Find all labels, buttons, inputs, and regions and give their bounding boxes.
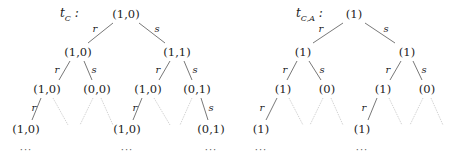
node-lll: (1) — [253, 124, 269, 136]
edge-r-r-left — [159, 61, 170, 80]
node-rl: (1) — [375, 84, 391, 96]
node-ll: (1,0) — [33, 84, 60, 96]
node-lll: (1,0) — [12, 124, 39, 136]
edge-label-r: r — [260, 103, 265, 113]
node-ll: (1) — [275, 84, 291, 96]
edge-s-rs-left — [201, 98, 208, 120]
edge-label-s: s — [383, 24, 388, 34]
edge-label-s: s — [192, 65, 197, 75]
faded-edge — [410, 98, 423, 125]
faded-edge — [101, 98, 113, 125]
node-root: (1) — [346, 9, 362, 21]
edge-label-r: r — [283, 65, 288, 75]
node-r: (1) — [399, 47, 415, 59]
tree-title: tC : — [60, 7, 79, 22]
edge-label-s: s — [91, 65, 96, 75]
edge-label-r: r — [133, 103, 138, 113]
tree-title: tC,A : — [296, 7, 323, 22]
edge-label-r: r — [362, 103, 367, 113]
ellipsis: ··· — [356, 144, 369, 155]
ellipsis: ··· — [121, 144, 134, 155]
faded-edge — [431, 98, 443, 125]
node-rss: (0,1) — [197, 124, 224, 136]
edge-label-r: r — [156, 65, 161, 75]
faded-edge — [180, 98, 192, 125]
faded-edge — [310, 98, 323, 125]
ellipsis: ··· — [205, 144, 218, 155]
edge-r-ll-right — [266, 98, 277, 120]
node-l: (1,0) — [64, 47, 91, 59]
edge-r-r-right — [390, 61, 401, 80]
edge-s-root-left — [139, 23, 165, 43]
faded-edge — [331, 98, 343, 125]
edge-label-r: r — [93, 24, 98, 34]
node-r: (1,1) — [163, 47, 190, 59]
edge-r-root-right — [313, 23, 343, 43]
node-rl: (1,0) — [134, 84, 161, 96]
edge-label-r: r — [319, 24, 324, 34]
edge-label-s: s — [154, 24, 159, 34]
edge-s-root-right — [365, 23, 395, 43]
node-root: (1,0) — [112, 9, 139, 21]
faded-edge — [53, 98, 68, 125]
edge-label-r: r — [386, 65, 391, 75]
edge-label-s: s — [319, 65, 324, 75]
edge-label-s: s — [208, 103, 213, 113]
node-l: (1) — [295, 47, 311, 59]
node-rll: (1,0) — [113, 124, 140, 136]
node-ls: (0) — [319, 84, 335, 96]
edge-r-rl-right — [368, 98, 377, 120]
tree-edges — [0, 0, 462, 157]
edge-s-r-left — [184, 61, 192, 80]
ellipsis: ··· — [20, 144, 33, 155]
faded-edge — [289, 98, 303, 125]
edge-r-l-left — [59, 61, 70, 80]
ellipsis: ··· — [255, 144, 268, 155]
node-rs: (0) — [419, 84, 435, 96]
edge-label-r: r — [55, 65, 60, 75]
node-rs: (0,1) — [183, 84, 210, 96]
faded-edge — [154, 98, 170, 125]
edge-label-s: s — [421, 65, 426, 75]
edge-label-r: r — [32, 103, 37, 113]
node-ls: (0,0) — [83, 84, 110, 96]
node-rll: (1) — [354, 124, 370, 136]
faded-edge — [389, 98, 402, 125]
faded-edge — [80, 98, 93, 125]
edge-r-l-right — [287, 61, 297, 80]
